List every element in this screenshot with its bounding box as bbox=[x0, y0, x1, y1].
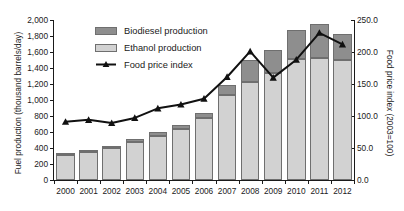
bar-segment-ethanol[interactable] bbox=[287, 59, 305, 180]
bar-segment-ethanol[interactable] bbox=[310, 58, 328, 180]
bar-segment-biodiesel[interactable] bbox=[195, 113, 213, 118]
x-axis-tick-mark bbox=[239, 181, 240, 184]
x-axis-tick-mark bbox=[123, 181, 124, 184]
chart-figure: Fuel production (thousand barrels/day) F… bbox=[0, 0, 404, 211]
bar-segment-ethanol[interactable] bbox=[241, 82, 259, 180]
bar-segment-biodiesel[interactable] bbox=[287, 30, 305, 60]
x-axis-tick-mark bbox=[331, 181, 332, 184]
bar-segment-ethanol[interactable] bbox=[172, 129, 190, 180]
bar-segment-biodiesel[interactable] bbox=[218, 85, 236, 95]
x-axis-tick-mark bbox=[262, 181, 263, 184]
legend-label: Ethanol production bbox=[124, 43, 202, 53]
left-axis-tick-label: 1,400 bbox=[27, 63, 48, 73]
bar-segment-biodiesel[interactable] bbox=[172, 125, 190, 129]
legend-swatch-icon bbox=[95, 44, 117, 52]
x-axis-tick-mark bbox=[216, 181, 217, 184]
right-axis-tick-label: 200.0 bbox=[357, 47, 378, 57]
legend-item-ethanol[interactable]: Ethanol production bbox=[95, 39, 255, 56]
bar-segment-biodiesel[interactable] bbox=[126, 139, 144, 142]
bar-group[interactable] bbox=[310, 20, 328, 180]
left-axis-tick-label: 1,600 bbox=[27, 47, 48, 57]
bar-segment-biodiesel[interactable] bbox=[102, 146, 120, 148]
bar-group[interactable] bbox=[264, 20, 282, 180]
x-axis-tick-mark bbox=[285, 181, 286, 184]
left-axis-tick-label: 200 bbox=[34, 159, 48, 169]
right-axis-tick-labels: 0.050.0100.0150.0200.0250.0 bbox=[357, 0, 397, 211]
left-axis-tick-label: 400 bbox=[34, 143, 48, 153]
bar-segment-ethanol[interactable] bbox=[195, 118, 213, 180]
bar-segment-biodiesel[interactable] bbox=[333, 34, 351, 60]
bar-segment-ethanol[interactable] bbox=[79, 152, 97, 180]
x-axis-tick-mark bbox=[192, 181, 193, 184]
chart-legend: Biodiesel productionEthanol productionFo… bbox=[95, 22, 255, 73]
legend-label: Biodiesel production bbox=[124, 26, 208, 36]
x-axis-tick-label: 2012 bbox=[327, 186, 357, 196]
legend-item-biodiesel[interactable]: Biodiesel production bbox=[95, 22, 255, 39]
bar-segment-ethanol[interactable] bbox=[264, 73, 282, 180]
bar-group[interactable] bbox=[287, 20, 305, 180]
x-axis-tick-mark bbox=[54, 181, 55, 184]
left-axis-tick-label: 1,800 bbox=[27, 31, 48, 41]
x-axis-tick-mark bbox=[77, 181, 78, 184]
left-axis-tick-label: 1,200 bbox=[27, 79, 48, 89]
bar-segment-ethanol[interactable] bbox=[149, 136, 167, 180]
left-axis-tick-label: 1,000 bbox=[27, 95, 48, 105]
bar-segment-biodiesel[interactable] bbox=[310, 24, 328, 58]
x-axis-tick-mark bbox=[354, 181, 355, 184]
bar-group[interactable] bbox=[333, 20, 351, 180]
bar-segment-ethanol[interactable] bbox=[56, 155, 74, 180]
bar-segment-ethanol[interactable] bbox=[218, 95, 236, 180]
right-axis-line bbox=[354, 20, 355, 181]
bar-segment-biodiesel[interactable] bbox=[149, 132, 167, 136]
bar-segment-biodiesel[interactable] bbox=[264, 50, 282, 72]
bar-segment-biodiesel[interactable] bbox=[79, 150, 97, 152]
top-cut-off-caption bbox=[0, 0, 404, 9]
legend-item-food_price_index[interactable]: Food price index bbox=[95, 56, 255, 73]
bar-segment-ethanol[interactable] bbox=[126, 142, 144, 180]
bar-group[interactable] bbox=[56, 20, 74, 180]
bar-segment-ethanol[interactable] bbox=[333, 60, 351, 180]
right-axis-tick-label: 250.0 bbox=[357, 15, 378, 25]
legend-swatch-icon bbox=[95, 27, 117, 35]
right-axis-tick-label: 150.0 bbox=[357, 79, 378, 89]
x-axis-tick-mark bbox=[169, 181, 170, 184]
x-axis-tick-labels: 2000200120022003200420052006200720082009… bbox=[0, 181, 404, 211]
legend-label: Food price index bbox=[124, 60, 193, 70]
right-axis-tick-label: 50.0 bbox=[357, 143, 373, 153]
left-axis-tick-label: 2,000 bbox=[27, 15, 48, 25]
left-axis-tick-label: 800 bbox=[34, 111, 48, 121]
x-axis-tick-mark bbox=[100, 181, 101, 184]
legend-line-marker-icon bbox=[95, 60, 117, 69]
left-axis-tick-label: 600 bbox=[34, 127, 48, 137]
x-axis-tick-mark bbox=[308, 181, 309, 184]
bar-segment-biodiesel[interactable] bbox=[56, 153, 74, 155]
right-axis-tick-label: 100.0 bbox=[357, 111, 378, 121]
bar-segment-ethanol[interactable] bbox=[102, 148, 120, 180]
left-axis-tick-labels: 02004006008001,0001,2001,4001,6001,8002,… bbox=[14, 0, 48, 211]
x-axis-tick-mark bbox=[146, 181, 147, 184]
